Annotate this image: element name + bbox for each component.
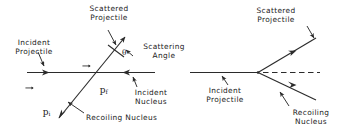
left-leader-scattered-projectile [108, 30, 116, 45]
right-label-incident-projectile: Incident Projectile [194, 86, 256, 104]
p-initial-subscript: i [48, 110, 50, 117]
left-theta-angle-symbol: θ [122, 48, 127, 57]
right-recoiling-nucleus-line [258, 73, 316, 101]
left-vector-label-p-initial: pi [14, 77, 50, 127]
left-leader-incident-nucleus [133, 77, 137, 87]
left-label-incident-projectile: Incident Projectile [3, 38, 65, 56]
right-leader-recoiling-nucleus [280, 92, 289, 106]
left-vector-label-p-final: pf [71, 55, 108, 105]
right-leader-scattered-projectile [307, 26, 314, 38]
right-label-scattered-projectile: Scattered Projectile [244, 6, 308, 24]
left-label-incident-nucleus: Incident Nucleus [126, 88, 176, 106]
scattering-diagram-figure: Incident Projectile Scattered Projectile… [0, 0, 340, 139]
right-label-recoiling-nucleus: Recoiling Nucleus [283, 108, 339, 126]
left-label-scattering-angle: Scattering Angle [136, 42, 192, 60]
right-leader-incident-projectile [222, 76, 228, 85]
left-label-scattered-projectile: Scattered Projectile [78, 4, 140, 22]
vector-arrow-icon [25, 85, 34, 90]
left-label-recoiling-nucleus: Recoiling Nucleus [86, 113, 186, 122]
vector-arrow-icon [82, 63, 91, 68]
left-leader-scattering-angle [126, 50, 133, 56]
p-final-subscript: f [105, 88, 107, 95]
right-scattered-projectile-line [258, 38, 316, 73]
p-initial-symbol: p [43, 107, 49, 117]
p-final-symbol: p [100, 85, 106, 95]
